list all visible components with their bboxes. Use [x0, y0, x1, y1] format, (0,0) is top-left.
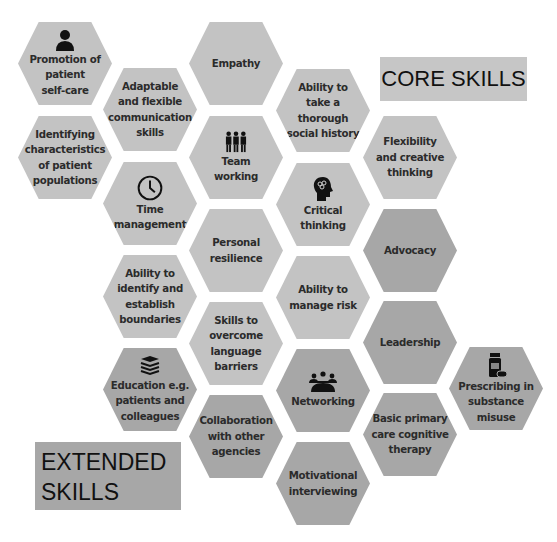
hex-label: Empathy [212, 56, 260, 72]
hex-prescribing-substance-misuse: Prescribing in substance misuse [449, 347, 543, 430]
hex-label: Flexibility and creative thinking [376, 134, 444, 181]
hex-label: Ability to identify and establish bounda… [117, 266, 183, 328]
hex-label: Collaboration with other agencies [199, 413, 272, 460]
hex-label: Personal resilience [210, 235, 263, 266]
hex-manage-risk: Ability to manage risk [276, 256, 370, 339]
clock-icon [137, 175, 163, 201]
books-icon [138, 355, 162, 377]
hex-label: Leadership [380, 335, 441, 351]
hex-language-barriers: Skills to overcome language barriers [189, 302, 283, 385]
hex-label: Adaptable and flexible communication ski… [108, 79, 192, 141]
hex-label: Promotion of patient self-care [29, 52, 100, 99]
hex-team-working: Team working [189, 116, 283, 199]
hex-label: Ability to take a thorough social histor… [282, 80, 364, 142]
hex-education: Education e.g. patients and colleagues [103, 348, 197, 431]
hex-label: Networking [291, 394, 355, 410]
extended-skills-label: EXTENDED SKILLS [35, 442, 181, 510]
hex-label: Education e.g. patients and colleagues [111, 378, 189, 425]
hex-networking: Networking [276, 349, 370, 432]
hex-promotion-of-self-care: Promotion of patient self-care [18, 22, 112, 105]
hex-identifying-characteristics: Identifying characteristics of patient p… [18, 116, 112, 199]
hex-label: Critical thinking [300, 203, 345, 234]
hex-establish-boundaries: Ability to identify and establish bounda… [103, 255, 197, 338]
hex-label: Identifying characteristics of patient p… [25, 127, 105, 189]
hex-label: Team working [214, 154, 258, 185]
meeting-icon [308, 371, 338, 393]
hex-label: Prescribing in substance misuse [458, 379, 533, 426]
hex-label: Advocacy [384, 243, 436, 259]
team-icon [222, 131, 250, 153]
hex-critical-thinking: Critical thinking [276, 163, 370, 246]
hex-label: Time management [114, 202, 186, 233]
hex-leadership: Leadership [363, 301, 457, 384]
hex-motivational-interviewing: Motivational interviewing [276, 442, 370, 525]
hex-label: Skills to overcome language barriers [209, 313, 263, 375]
core-skills-label: CORE SKILLS [380, 57, 527, 101]
hex-time-management: Time management [103, 162, 197, 245]
hex-flexibility-creative-thinking: Flexibility and creative thinking [363, 116, 457, 199]
hex-label: Basic primary care cognitive therapy [371, 411, 448, 458]
hex-cognitive-therapy: Basic primary care cognitive therapy [363, 393, 457, 476]
hex-adaptable-communication: Adaptable and flexible communication ski… [103, 68, 197, 151]
hex-advocacy: Advocacy [363, 209, 457, 292]
hex-collaboration: Collaboration with other agencies [189, 395, 283, 478]
hex-empathy: Empathy [189, 22, 283, 105]
hex-social-history: Ability to take a thorough social histor… [276, 69, 370, 152]
brain-head-icon [311, 176, 335, 202]
hex-personal-resilience: Personal resilience [189, 209, 283, 292]
hex-label: Ability to manage risk [289, 282, 356, 313]
person-icon [53, 29, 77, 51]
hex-label: Motivational interviewing [289, 468, 357, 499]
medicine-bottle-icon [484, 352, 508, 378]
